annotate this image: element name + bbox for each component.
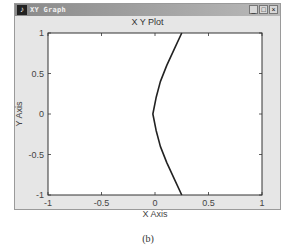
x-axis-label: X Axis xyxy=(142,209,168,219)
x-tick-label: -1 xyxy=(44,198,52,208)
y-tick-label: 0.5 xyxy=(31,69,44,79)
y-axis-label: Y Axis xyxy=(14,101,24,126)
x-tick-label: 0 xyxy=(152,198,157,208)
y-tick-label: -0.5 xyxy=(28,150,44,160)
x-tick-label: 1 xyxy=(259,198,264,208)
plot-area xyxy=(48,33,262,195)
y-tick-label: 1 xyxy=(39,28,44,38)
figure-caption: (b) xyxy=(0,233,296,244)
y-tick-label: -1 xyxy=(36,190,44,200)
x-tick-label: 0.5 xyxy=(202,198,215,208)
y-tick-label: 0 xyxy=(39,109,44,119)
chart: -1-0.500.5110.50-0.5-1X AxisY Axis xyxy=(0,0,296,251)
x-tick-label: -0.5 xyxy=(94,198,110,208)
